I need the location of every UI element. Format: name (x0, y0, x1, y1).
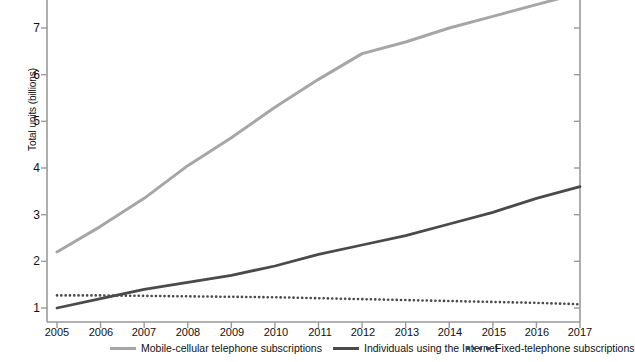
x-tick-label-2014: 2014 (430, 326, 470, 338)
legend-dotted-line-icon-fixed (466, 347, 490, 350)
x-tick-label-2006: 2006 (81, 326, 121, 338)
x-tick-label-2007: 2007 (124, 326, 164, 338)
x-tick-label-2012: 2012 (343, 326, 383, 338)
series-line-0 (57, 0, 580, 252)
legend-label-fixed: Fixed-telephone subscriptions (495, 342, 635, 354)
legend-item-mobile: Mobile-cellular telephone subscriptions (110, 342, 322, 354)
x-tick-label-2009: 2009 (212, 326, 252, 338)
axis-lines (47, 0, 580, 322)
x-tick-label-2005: 2005 (37, 326, 77, 338)
x-tick-label-2013: 2013 (387, 326, 427, 338)
x-tick-label-2017: 2017 (560, 326, 600, 338)
x-tick-label-2008: 2008 (168, 326, 208, 338)
legend-line-icon-internet (333, 347, 359, 350)
x-tick-label-2015: 2015 (474, 326, 514, 338)
legend-label-mobile: Mobile-cellular telephone subscriptions (141, 342, 322, 354)
series-line-2 (57, 295, 580, 304)
data-series-layer (57, 0, 580, 308)
y-axis-ticks (41, 28, 47, 308)
chart-legend: Mobile-cellular telephone subscriptions … (0, 340, 591, 362)
y-axis-ticks-right (574, 28, 580, 308)
x-tick-label-2011: 2011 (300, 326, 340, 338)
x-tick-label-2016: 2016 (517, 326, 557, 338)
x-tick-label-2010: 2010 (256, 326, 296, 338)
legend-item-fixed: Fixed-telephone subscriptions (466, 342, 635, 354)
legend-line-icon-mobile (110, 347, 136, 350)
